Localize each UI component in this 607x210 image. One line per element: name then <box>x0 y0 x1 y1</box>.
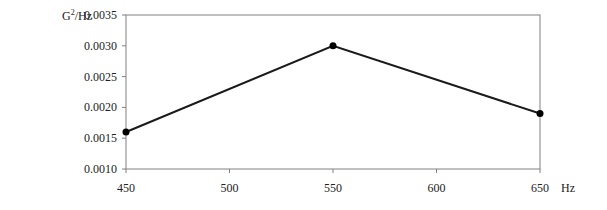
y-tick-label: 0.0010 <box>84 162 117 176</box>
x-tick-label: 500 <box>221 181 239 195</box>
y-tick-label: 0.0020 <box>84 100 117 114</box>
y-tick-label: 0.0025 <box>84 70 117 84</box>
data-point-marker <box>123 129 130 136</box>
data-point-marker <box>330 42 337 49</box>
x-tick-label: 450 <box>117 181 135 195</box>
y-axis-unit-label: G2/Hz <box>62 8 92 23</box>
y-tick-label: 0.0015 <box>84 131 117 145</box>
series-line <box>126 46 540 132</box>
x-axis: 450500550600650 <box>117 169 549 195</box>
data-series <box>123 42 544 135</box>
x-axis-unit-label: Hz <box>561 181 575 195</box>
y-axis: 0.00100.00150.00200.00250.00300.0035 <box>84 8 126 176</box>
x-tick-label: 550 <box>324 181 342 195</box>
data-point-marker <box>537 110 544 117</box>
x-tick-label: 650 <box>531 181 549 195</box>
psd-line-chart: 0.00100.00150.00200.00250.00300.0035 450… <box>0 0 607 210</box>
x-tick-label: 600 <box>428 181 446 195</box>
plot-frame <box>126 15 540 169</box>
plot-area-border <box>126 15 540 169</box>
y-tick-label: 0.0030 <box>84 39 117 53</box>
